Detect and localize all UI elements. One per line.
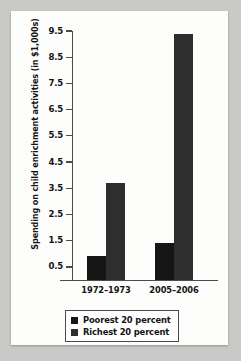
bar-1-1 xyxy=(174,34,193,280)
legend-item-label: Poorest 20 percent xyxy=(83,315,171,325)
bar-0-1 xyxy=(155,243,174,280)
x-axis-tick-label: 2005–2006 xyxy=(134,285,214,295)
legend-swatch-icon xyxy=(71,329,78,336)
bar-series-group xyxy=(11,11,228,280)
bar-1-0 xyxy=(106,183,125,280)
legend-item: Richest 20 percent xyxy=(71,326,171,338)
bar-chart-plot-area: Spending on child enrichment activities … xyxy=(11,11,228,345)
legend-swatch-icon xyxy=(71,317,78,324)
x-axis-line xyxy=(60,280,218,281)
legend-item: Poorest 20 percent xyxy=(71,314,171,326)
chart-figure-panel: Spending on child enrichment activities … xyxy=(11,11,228,345)
chart-legend: Poorest 20 percentRichest 20 percent xyxy=(65,310,179,342)
bar-0-0 xyxy=(87,256,106,280)
legend-item-label: Richest 20 percent xyxy=(83,327,169,337)
